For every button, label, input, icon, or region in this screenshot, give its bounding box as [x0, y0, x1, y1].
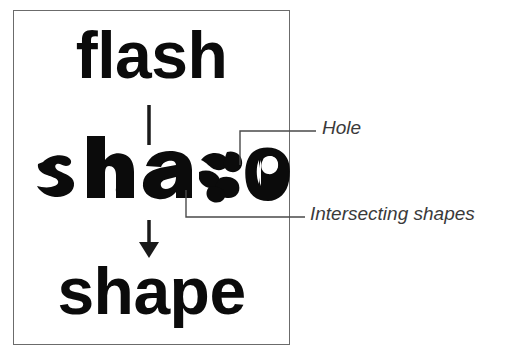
- distorted-glyph-row: [13, 130, 290, 216]
- hole-counter: [261, 156, 278, 174]
- result-word-shape: shape: [13, 258, 290, 324]
- glyph-fragment-a: [143, 151, 192, 199]
- glyph-fragment-s: [37, 155, 74, 197]
- figure-container: flash: [0, 0, 505, 357]
- callout-label-intersecting-shapes: Intersecting shapes: [310, 204, 475, 223]
- distorted-glyphs-svg: [13, 130, 290, 216]
- glyph-fragment-n: [245, 148, 290, 201]
- glyph-fragment-intersecting: [199, 151, 242, 202]
- glyph-fragment-h: [87, 136, 134, 198]
- callout-label-hole: Hole: [322, 118, 361, 137]
- source-word-flash: flash: [13, 22, 290, 88]
